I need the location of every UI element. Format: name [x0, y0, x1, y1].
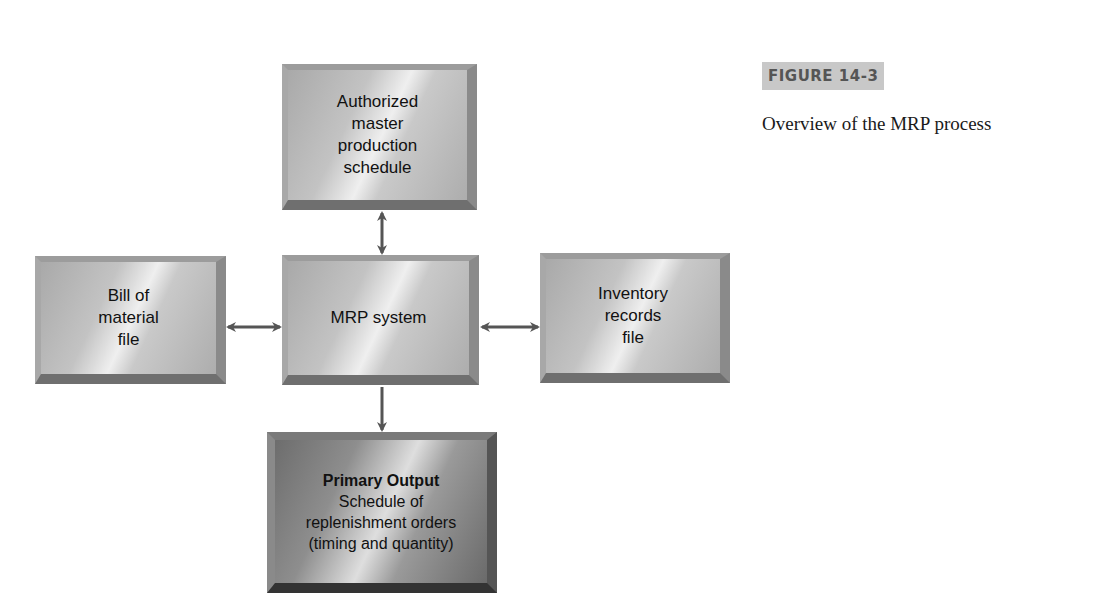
bom-line-1: Bill of — [108, 285, 150, 307]
master-schedule-line-3: production — [338, 135, 417, 157]
master-schedule-line-4: schedule — [343, 157, 411, 179]
inventory-line-1: Inventory — [598, 283, 668, 305]
primary-output-title: Primary Output — [323, 470, 439, 491]
primary-output-box: Primary Output Schedule of replenishment… — [267, 432, 497, 593]
master-schedule-box: Authorized master production schedule — [282, 64, 477, 210]
figure-caption: Overview of the MRP process — [762, 113, 991, 135]
mrp-system-label: MRP system — [330, 307, 426, 329]
inventory-records-box: Inventory records file — [540, 253, 730, 383]
inventory-line-3: file — [622, 327, 644, 349]
inventory-line-2: records — [605, 305, 662, 327]
bom-line-3: file — [118, 329, 140, 351]
primary-output-line-1: Schedule of — [339, 491, 424, 512]
bom-line-2: material — [98, 307, 158, 329]
primary-output-line-3: (timing and quantity) — [309, 533, 454, 554]
primary-output-line-2: replenishment orders — [306, 512, 456, 533]
mrp-system-box: MRP system — [282, 255, 479, 385]
figure-label: FIGURE 14-3 — [762, 62, 884, 90]
master-schedule-line-1: Authorized — [337, 91, 418, 113]
master-schedule-line-2: master — [352, 113, 404, 135]
bill-of-material-box: Bill of material file — [35, 256, 226, 384]
